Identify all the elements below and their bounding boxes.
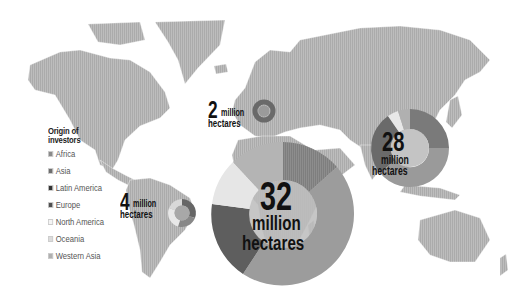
legend-label: Asia [56, 166, 71, 176]
legend-label: Oceania [56, 234, 85, 244]
swatch-icon [48, 168, 53, 174]
swatch-icon [48, 151, 53, 157]
iceland [214, 64, 228, 74]
legend-item-north-america: North America [48, 213, 104, 230]
new-zealand [500, 254, 508, 276]
legend-title-line2: investors [48, 136, 104, 145]
south-america [126, 178, 195, 278]
label-europe-unit2: hectares [208, 118, 241, 129]
swatch-icon [48, 219, 53, 225]
legend: Origin of investors Africa Asia Latin Am… [48, 127, 114, 264]
legend-label: Latin America [56, 183, 102, 193]
legend-item-latin-america: Latin America [48, 179, 104, 196]
legend-item-asia: Asia [48, 162, 104, 179]
legend-item-western-asia: Western Asia [48, 247, 104, 264]
greenland [155, 20, 225, 84]
label-asia-number: 28 [382, 128, 404, 156]
legend-item-oceania: Oceania [48, 230, 104, 247]
label-asia-unit2: hectares [372, 165, 408, 177]
label-latin-america-unit2: hectares [120, 209, 153, 220]
swatch-icon [48, 236, 53, 242]
legend-label: Western Asia [56, 251, 101, 261]
australia [418, 210, 490, 262]
legend-label: North America [56, 217, 104, 227]
arctic-islands [88, 22, 145, 45]
legend-item-europe: Europe [48, 196, 104, 213]
legend-item-africa: Africa [48, 145, 104, 162]
indonesia [400, 185, 460, 200]
swatch-icon [48, 253, 53, 259]
legend-label: Europe [56, 200, 81, 210]
swatch-icon [48, 202, 53, 208]
label-africa-number: 32 [260, 176, 292, 216]
label-africa-unit1: million [252, 212, 301, 233]
legend-label: Africa [56, 149, 76, 159]
donut-latin-america [168, 199, 196, 227]
swatch-icon [48, 185, 53, 191]
label-africa-unit2: hectares [242, 232, 304, 253]
